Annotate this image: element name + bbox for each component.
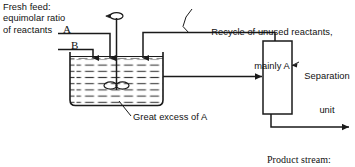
product-stream-label: Product stream: R and T with small amoun… bbox=[267, 130, 347, 167]
separation-label-line1: Separation bbox=[301, 71, 353, 82]
great-excess-label: Great excess of A bbox=[133, 112, 207, 123]
product-label-line1: Product stream: bbox=[267, 154, 347, 166]
stream-a-label: A bbox=[63, 24, 71, 35]
recycle-leader-line bbox=[183, 9, 192, 33]
fresh-feed-label: Fresh feed: equimolar ratio of reactants bbox=[3, 2, 65, 36]
stream-b-label: B bbox=[71, 40, 78, 51]
process-flow-diagram: Fresh feed: equimolar ratio of reactants… bbox=[0, 0, 355, 167]
recycle-label-line1: Recycle of unused reactants, bbox=[193, 27, 351, 38]
separation-unit-label: Separation unit bbox=[301, 48, 353, 139]
separation-label-line2: unit bbox=[301, 105, 353, 116]
stirred-tank-reactor bbox=[70, 52, 170, 106]
rotation-arrowhead-icon bbox=[106, 14, 111, 18]
feed-stream-a-line bbox=[58, 34, 110, 59]
reactor-liquid-fill bbox=[70, 56, 170, 105]
